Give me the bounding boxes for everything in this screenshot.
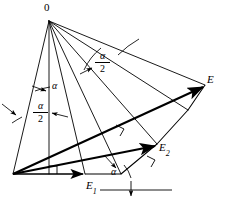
ray-to-e-tip: [49, 21, 205, 85]
phasor-chain-upper-links: [121, 85, 205, 174]
phasor-chain-group: [121, 85, 205, 174]
ray-to-base-left: [13, 21, 49, 174]
apex-label: 0: [44, 2, 50, 13]
component-e2-label: E2: [159, 142, 170, 156]
right-angle-mark-lower: [147, 156, 155, 167]
angle-alpha-apex-label: α: [52, 81, 57, 91]
component-e2-symbol: E: [159, 141, 166, 153]
half-alpha-right-denominator: 2: [95, 63, 110, 74]
half-alpha-right-numerator: α: [95, 51, 110, 62]
ray-to-e1-tip: [49, 21, 85, 174]
angle-alpha-baseline-label: α: [111, 167, 116, 177]
pointer-to-half-alpha-right: [80, 68, 92, 74]
fan-rays-group: [13, 21, 205, 174]
arc-half-alpha-left: [12, 117, 22, 123]
half-alpha-right-fraction: α 2: [95, 51, 110, 74]
pointer-to-half-alpha-left-outer: [2, 104, 16, 115]
half-alpha-left-numerator: α: [33, 101, 48, 112]
component-e1-label: E1: [86, 180, 97, 194]
component-e1-subscript: 1: [93, 187, 97, 196]
component-e1-symbol: E: [86, 179, 93, 191]
angle-arcs-group: [12, 39, 139, 178]
pointer-to-half-alpha-left-inner: [52, 113, 68, 117]
resultant-vector-label: E: [207, 74, 214, 85]
arc-half-alpha-right-outer: [118, 39, 139, 55]
component-e2-subscript: 2: [166, 149, 170, 158]
half-alpha-left-fraction: α 2: [33, 101, 48, 124]
figure-container: 0 E E1 E2 α α α 2 α 2: [0, 0, 226, 205]
half-alpha-left-denominator: 2: [33, 113, 48, 124]
ray-to-e2-tip: [49, 21, 157, 144]
